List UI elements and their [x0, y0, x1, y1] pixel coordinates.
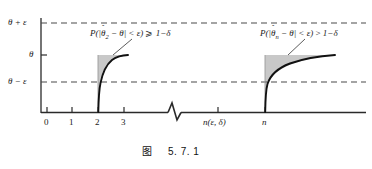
ylabel-theta-plus-eps: θ + ε: [8, 18, 27, 27]
shaded-region-left: [98, 55, 128, 112]
caption-number: 5. 7. 1: [168, 146, 199, 157]
pointer-line-right: [288, 39, 305, 55]
axis-break-zigzag: [168, 103, 181, 120]
xlabel-n-eps-delta: n(ε, δ): [203, 118, 226, 127]
caption-prefix: 图: [142, 146, 153, 157]
xlabel-2: 2: [95, 118, 100, 127]
figure-container: θ + ε θ θ − ε 0 1 2 3 n(ε, δ) n P(| θ ˆ …: [0, 0, 372, 169]
xlabel-n: n: [262, 118, 267, 127]
shaded-region-right: [265, 55, 335, 112]
figure-plot: [0, 0, 372, 169]
ylabel-theta-minus-eps: θ − ε: [8, 77, 27, 86]
xlabel-0: 0: [44, 118, 49, 127]
pointer-line-left: [113, 39, 132, 55]
ylabel-theta: θ: [29, 50, 33, 59]
annotation-right: P(| θ ˆ n − θ| < ε) > 1−δ: [260, 29, 338, 40]
figure-caption: 图 5. 7. 1: [142, 147, 199, 157]
xlabel-1: 1: [69, 118, 74, 127]
xlabel-3: 3: [121, 118, 126, 127]
annotation-left: P(| θ ˆ 2 − θ| < ε) ⩾ 1−δ: [90, 29, 171, 40]
